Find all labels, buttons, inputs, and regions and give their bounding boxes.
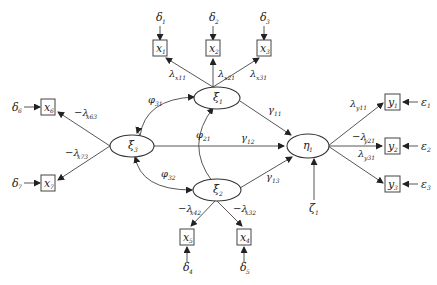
coef-phi32: φ 32 [161,168,176,181]
svg-text:31: 31 [155,100,163,107]
coef-lambda-x31: λ x31 [249,68,267,81]
error-delta3: δ 3 [260,11,270,25]
svg-text:x42: x42 [190,209,201,216]
x3-sub: 3 [266,48,270,55]
observed-x3: x 3 [257,40,271,56]
observed-x2: x 2 [206,40,220,56]
delta3-sub: 3 [266,18,270,25]
eta1-sub: 1 [309,146,313,153]
x4-sub: 4 [245,237,250,244]
latent-xi1: ξ 1 [194,87,240,109]
observed-y2: y 2 [385,138,400,154]
coef-gamma11: γ 11 [268,104,282,117]
coef-lambda-y21: −λ y21 [352,131,375,145]
eps3-sub: 3 [427,184,431,191]
svg-text:12: 12 [247,138,255,145]
xi3-sub: 3 [134,146,138,153]
svg-text:32: 32 [168,174,176,181]
x5-sub: 5 [189,237,193,244]
svg-text:x11: x11 [175,74,186,81]
latent-eta1: η 1 [287,134,329,158]
svg-text:y31: y31 [363,154,375,162]
y2-sub: 2 [393,146,398,153]
loading-arrow-y3 [328,146,383,183]
delta5-sub: 5 [246,268,250,275]
error-delta2: δ 2 [209,11,219,25]
coef-lambda-x21: λ x21 [217,68,235,81]
svg-text:x31: x31 [256,74,267,81]
xi2-sub: 2 [218,190,223,197]
coef-lambda-y31: λ y31 [357,148,375,162]
svg-text:y11: y11 [355,104,367,112]
observed-x4: x 4 [237,229,251,245]
error-delta6: δ 6 [12,101,22,114]
coef-lambda-x11: λ x11 [168,68,186,81]
latent-xi3: ξ 3 [110,135,154,157]
observed-x6: x 6 [41,99,55,115]
svg-text:y21: y21 [363,137,375,145]
sem-diagram: x 1 x 2 x 3 x 6 x 7 x 5 x 4 y 1 y 2 [0,0,437,285]
coef-lambda-x73: −λ x73 [65,147,88,160]
svg-text:x73: x73 [77,153,88,160]
x7-sub: 7 [50,183,54,190]
observed-y3: y 3 [385,176,400,192]
observed-x1: x 1 [153,40,167,56]
x6-sub: 6 [50,107,54,114]
covariance-arrow-phi21 [199,108,213,181]
svg-text:φ: φ [148,94,155,105]
error-eps2: ε 2 [421,140,431,153]
eps2-sub: 2 [426,146,431,153]
latent-xi2: ξ 2 [193,179,241,201]
svg-text:x63: x63 [86,113,97,120]
svg-text:φ: φ [196,129,203,140]
observed-x7: x 7 [41,175,55,191]
delta4-sub: 4 [188,268,193,275]
error-eps1: ε 1 [421,96,431,109]
delta7-sub: 7 [18,183,22,190]
observed-y1: y 1 [385,94,400,110]
path-arrow-gamma11 [240,101,291,135]
zeta1-sub: 1 [315,209,319,216]
svg-text:x32: x32 [245,209,256,216]
error-delta4: δ 4 [183,261,193,275]
coef-gamma12: γ 12 [241,132,255,145]
error-delta7: δ 7 [12,177,22,190]
coef-phi21: φ 21 [196,129,211,142]
x2-sub: 2 [214,48,219,55]
disturbance-zeta1: ζ 1 [309,202,319,216]
delta1-sub: 1 [162,18,166,25]
svg-text:x21: x21 [224,74,235,81]
svg-text:11: 11 [274,110,282,117]
xi1-sub: 1 [219,98,223,105]
error-delta5: δ 5 [240,261,250,275]
coef-gamma13: γ 13 [266,171,280,184]
svg-text:13: 13 [272,177,280,184]
y1-sub: 1 [394,102,398,109]
svg-text:21: 21 [202,135,211,142]
coef-lambda-y11: λ y11 [349,98,367,112]
delta2-sub: 2 [214,18,219,25]
svg-text:φ: φ [161,168,168,179]
coef-lambda-x63: −λ x63 [74,107,97,120]
error-eps3: ε 3 [421,178,431,191]
coef-lambda-x32: −λ x32 [233,203,256,216]
coef-phi31: φ 31 [148,94,163,107]
eps1-sub: 1 [427,102,431,109]
delta6-sub: 6 [18,107,22,114]
y3-sub: 3 [394,184,398,191]
x1-sub: 1 [162,48,166,55]
error-delta1: δ 1 [156,11,166,25]
observed-x5: x 5 [180,229,194,245]
coef-lambda-x42: −λ x42 [178,203,201,216]
